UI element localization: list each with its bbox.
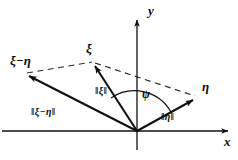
vector-diagram-figure: y x ξ η ξ−η ‖ξ‖ ‖η‖ ‖ξ−η‖ ψ <box>0 0 238 160</box>
norm-label-eta: ‖η‖ <box>161 112 174 122</box>
norm-label-xi-minus-eta: ‖ξ−η‖ <box>31 107 55 117</box>
angle-arc-psi <box>111 91 171 112</box>
x-axis-label: x <box>224 135 231 148</box>
norm-label-xi: ‖ξ‖ <box>95 86 107 96</box>
y-axis-label: y <box>148 4 154 17</box>
vector-label-eta: η <box>202 80 209 93</box>
vector-label-xi: ξ <box>86 42 92 55</box>
dashed-line-xi-minus-eta-to-xi <box>27 62 92 73</box>
angle-label-psi: ψ <box>142 88 150 100</box>
vector-label-xi-minus-eta: ξ−η <box>10 54 31 67</box>
vector-xi-minus-eta-line <box>29 76 137 131</box>
